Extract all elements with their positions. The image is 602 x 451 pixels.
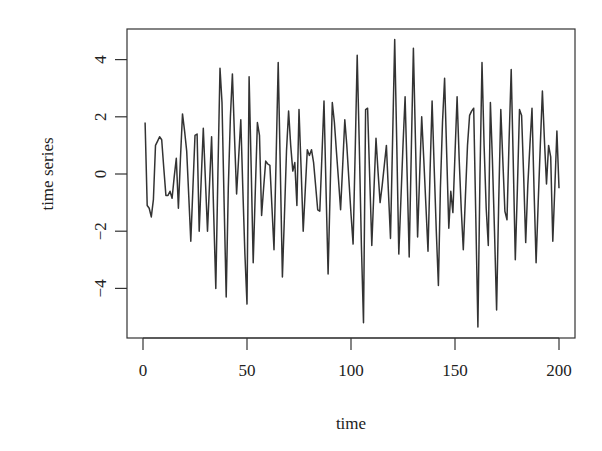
- x-axis: 050100150200: [139, 338, 572, 380]
- x-tick-label: 200: [546, 361, 572, 380]
- y-tick-label: −2: [91, 222, 110, 240]
- y-tick-label: −4: [91, 279, 110, 298]
- y-axis-title: time series: [38, 137, 57, 210]
- x-tick-label: 50: [239, 361, 256, 380]
- x-tick-label: 0: [139, 361, 148, 380]
- y-axis: −4−2024: [91, 55, 127, 298]
- y-tick-label: 2: [91, 113, 110, 122]
- y-tick-label: 4: [91, 55, 110, 64]
- line-chart: −4−2024 050100150200 time time series: [0, 0, 602, 451]
- x-tick-label: 100: [338, 361, 364, 380]
- x-axis-title: time: [336, 414, 366, 433]
- x-tick-label: 150: [442, 361, 468, 380]
- y-tick-label: 0: [91, 170, 110, 179]
- series-line: [145, 40, 559, 327]
